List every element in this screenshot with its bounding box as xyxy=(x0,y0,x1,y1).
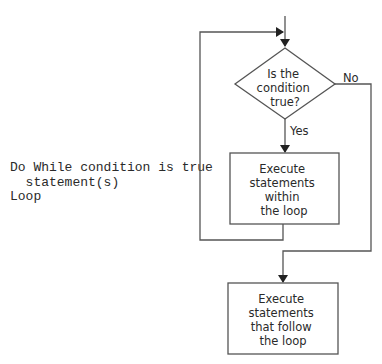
loop-body-line-3: within xyxy=(265,190,300,204)
yes-label: Yes xyxy=(289,124,309,138)
after-loop-line-1: Execute xyxy=(258,292,304,306)
loop-body-text: Execute statements within the loop xyxy=(250,162,319,218)
after-loop-line-4: the loop xyxy=(259,334,306,348)
loop-body-line-2: statements xyxy=(250,176,315,190)
no-label: No xyxy=(343,71,359,85)
loop-body-line-4: the loop xyxy=(260,204,307,218)
decision-line-1: Is the xyxy=(267,67,299,81)
after-loop-line-2: statements xyxy=(249,306,314,320)
decision-text: Is the condition true? xyxy=(257,67,314,109)
decision-line-3: true? xyxy=(270,95,300,109)
loop-body-line-1: Execute xyxy=(259,162,305,176)
after-loop-line-3: that follow xyxy=(251,320,312,334)
decision-line-2: condition xyxy=(257,81,310,95)
flowchart: Is the condition true? Yes No Execute st… xyxy=(0,0,382,364)
after-loop-text: Execute statements that follow the loop xyxy=(249,292,318,348)
